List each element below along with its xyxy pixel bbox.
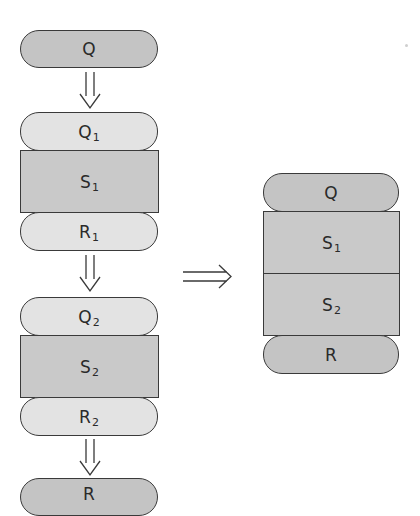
precondition-q2: Q2 (20, 297, 158, 336)
postcondition-r2: R2 (20, 397, 158, 436)
down-double-arrow-icon (77, 72, 103, 110)
down-double-arrow-icon (77, 439, 103, 477)
composite-postcondition-r: R (263, 335, 399, 374)
down-double-arrow-icon (77, 255, 103, 293)
precondition-q: Q (20, 30, 158, 68)
composite-precondition-q: Q (263, 173, 399, 212)
postcondition-r1: R1 (20, 212, 158, 251)
implies-arrow-icon (183, 264, 233, 290)
postcondition-r: R (20, 478, 158, 516)
composite-statement-s2: S2 (263, 273, 400, 336)
composite-statement-s1: S1 (263, 211, 400, 274)
statement-s1: S1 (20, 150, 159, 213)
statement-s2: S2 (20, 335, 159, 398)
label: Q (82, 39, 95, 59)
precondition-q1: Q1 (20, 112, 158, 151)
speck (405, 44, 408, 47)
